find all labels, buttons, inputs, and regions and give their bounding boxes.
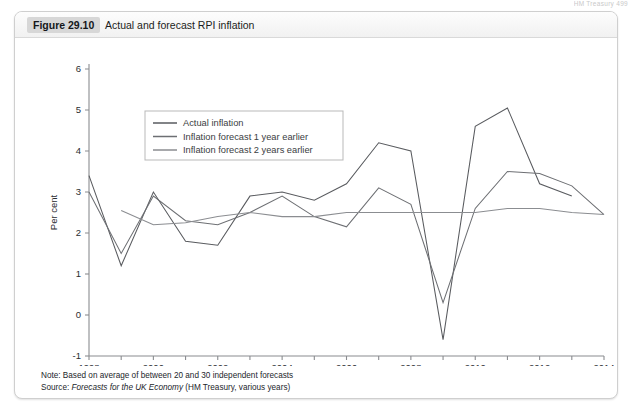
- axes-group: [89, 64, 604, 356]
- y-axis-title: Per cent: [48, 194, 59, 230]
- y-tick-label: 2: [76, 227, 81, 238]
- legend-label-3: Inflation forecast 2 years earlier: [183, 145, 313, 155]
- figure-titlebar: Figure 29.10 Actual and forecast RPI inf…: [15, 12, 617, 38]
- figure-number-badge: Figure 29.10: [27, 17, 100, 33]
- note-prefix: Note:: [41, 371, 63, 380]
- y-tick-label: 4: [76, 145, 81, 156]
- legend-label-1: Actual inflation: [183, 118, 243, 128]
- rpi-inflation-line-chart: -10123456 199820002002200420062008201020…: [15, 38, 618, 366]
- note-line: Note: Based on average of between 20 and…: [41, 370, 601, 382]
- x-tick-label: 2012: [529, 362, 550, 366]
- y-tick-label: -1: [73, 350, 81, 361]
- y-tick-label: 0: [76, 309, 81, 320]
- source-publication-title: Forecasts for the UK Economy: [72, 383, 183, 392]
- y-tick-label: 3: [76, 186, 81, 197]
- legend-label-2: Inflation forecast 1 year earlier: [183, 132, 308, 142]
- note-text: Based on average of between 20 and 30 in…: [63, 371, 293, 380]
- x-tick-label: 2014: [593, 362, 614, 366]
- x-tick-label: 2006: [336, 362, 357, 366]
- x-tick-label: 2008: [400, 362, 421, 366]
- figure-title: Actual and forecast RPI inflation: [105, 19, 254, 31]
- figure-card: Figure 29.10 Actual and forecast RPI inf…: [14, 11, 618, 399]
- chart-plot-area: -10123456 199820002002200420062008201020…: [15, 38, 618, 366]
- x-tick-label: 2010: [465, 362, 486, 366]
- source-line: Source: Forecasts for the UK Economy (HM…: [41, 382, 601, 394]
- figure-notes: Note: Based on average of between 20 and…: [41, 370, 601, 394]
- y-tick-label: 1: [76, 268, 81, 279]
- series-line-3: [121, 208, 604, 224]
- chart-legend: Actual inflationInflation forecast 1 yea…: [145, 111, 343, 160]
- source-prefix: Source:: [41, 383, 72, 392]
- y-axis-title-group: Per cent: [48, 194, 59, 230]
- source-rest: (HM Treasury, various years): [183, 383, 290, 392]
- x-tick-label: 2004: [272, 362, 293, 366]
- x-tick-label: 2000: [143, 362, 164, 366]
- x-tick-label: 1998: [78, 362, 99, 366]
- page-header-text: HM Treasury 499: [574, 0, 628, 8]
- x-axis-ticks: 199820002002200420062008201020122014: [78, 356, 614, 366]
- y-axis-ticks: -10123456: [73, 63, 89, 361]
- y-tick-label: 5: [76, 104, 81, 115]
- x-tick-label: 2002: [207, 362, 228, 366]
- series-line-2: [89, 172, 604, 303]
- y-tick-label: 6: [76, 63, 81, 74]
